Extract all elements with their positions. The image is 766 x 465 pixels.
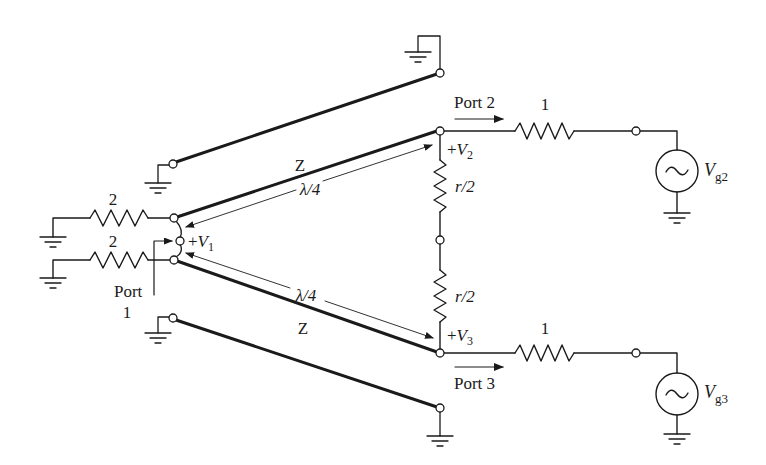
port1-arrow (154, 241, 172, 295)
ground-icon-bottom-right (427, 411, 453, 446)
resistor-label-lower: r/2 (455, 287, 475, 306)
impedance-label-lower: Z (298, 319, 308, 338)
node-lower-left (169, 314, 177, 322)
node-port2 (436, 127, 444, 135)
port1-label: Port (114, 282, 143, 301)
node-port3-source (632, 349, 640, 357)
ground-icon-upper-left (145, 165, 171, 193)
v2-label: +V2 (447, 140, 473, 162)
wavelength-label-lower: λ/4 (295, 286, 317, 305)
source-label-vg3: Vg3 (704, 382, 728, 406)
ground-icon-lower-left (145, 317, 171, 343)
node-port1-lower (170, 256, 178, 264)
res-label-port1-upper: 2 (109, 190, 118, 209)
transmission-line-upper-ground (176, 74, 437, 162)
port3-wire (444, 345, 677, 373)
ground-icon-top (405, 36, 440, 70)
port3-label: Port 3 (454, 374, 495, 393)
transmission-line-upper-signal (177, 131, 437, 217)
v1-label: +V1 (188, 232, 214, 254)
node-mid-resistor (436, 236, 444, 244)
wilkinson-divider-schematic: 2 2 Port 1 +V1 Z λ/4 λ/4 Z +V2 +V3 r/2 r… (0, 0, 766, 465)
res-label-port1-lower: 2 (109, 232, 118, 251)
v3-label: +V3 (447, 326, 473, 348)
node-top-right (436, 69, 444, 77)
ac-source-icon-vg2 (656, 150, 698, 223)
wavelength-label-upper: λ/4 (299, 180, 321, 199)
port1-number: 1 (123, 303, 132, 322)
node-port3 (436, 349, 444, 357)
ac-source-icon-vg3 (656, 373, 698, 444)
ground-icon-port1-upper (40, 237, 66, 247)
node-port2-source (632, 127, 640, 135)
res-label-port3: 1 (541, 319, 550, 338)
port2-wire (444, 123, 677, 150)
res-label-port2: 1 (541, 95, 550, 114)
resistor-port1-lower (53, 252, 170, 278)
resistor-r-half-upper (434, 134, 446, 236)
impedance-label-upper: Z (295, 156, 305, 175)
transmission-line-lower-signal (177, 261, 437, 352)
port2-label: Port 2 (454, 93, 495, 112)
resistor-r-half-lower (434, 244, 446, 349)
source-label-vg2: Vg2 (704, 160, 728, 184)
resistor-label-upper: r/2 (455, 177, 475, 196)
node-port1-center (176, 237, 184, 245)
node-upper-left (169, 160, 177, 168)
node-port1-upper (170, 214, 178, 222)
ground-icon-port1-lower (40, 278, 66, 288)
node-bottom-right (436, 404, 444, 412)
